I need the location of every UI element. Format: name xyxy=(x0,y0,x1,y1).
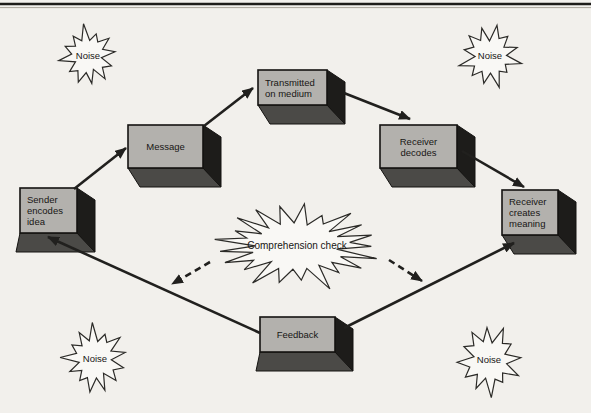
feedback-label-line: Feedback xyxy=(277,329,319,340)
communication-process-diagram: NoiseNoiseNoiseNoiseComprehension checkS… xyxy=(0,0,591,413)
node-transmitted-on-medium: Transmittedon medium xyxy=(258,70,345,124)
receiver-creates-meaning-label-line: creates xyxy=(509,207,540,218)
receiver-decodes-label-line: Receiver xyxy=(400,136,438,147)
receiver-creates-meaning-label-line: meaning xyxy=(509,218,545,229)
noise-top-right-label: Noise xyxy=(478,50,502,61)
receiver-decodes-label: Receiverdecodes xyxy=(400,136,438,158)
transmitted-on-medium-label-line: Transmitted xyxy=(265,77,315,88)
message-label: Message xyxy=(146,141,185,152)
transmitted-on-medium-label-line: on medium xyxy=(265,88,312,99)
node-feedback: Feedback xyxy=(256,317,353,371)
feedback-label: Feedback xyxy=(277,329,319,340)
message-label-line: Message xyxy=(146,141,185,152)
comprehension-check-label: Comprehension check xyxy=(247,240,347,251)
noise-bottom-right-label: Noise xyxy=(477,354,501,365)
noise-top-left-label: Noise xyxy=(76,50,100,61)
receiver-decodes-label-line: decodes xyxy=(401,147,437,158)
sender-encodes-idea-label-line: Sender xyxy=(27,194,58,205)
noise-bottom-left-label: Noise xyxy=(83,353,107,364)
transmitted-on-medium-label: Transmittedon medium xyxy=(265,77,315,99)
node-sender-encodes-idea: Senderencodesidea xyxy=(16,188,95,252)
receiver-creates-meaning-label-line: Receiver xyxy=(509,196,547,207)
communication-process-figure: NoiseNoiseNoiseNoiseComprehension checkS… xyxy=(0,0,591,413)
node-receiver-decodes: Receiverdecodes xyxy=(380,125,475,187)
sender-encodes-idea-label-line: encodes xyxy=(27,205,63,216)
sender-encodes-idea-label-line: idea xyxy=(27,216,46,227)
node-message: Message xyxy=(128,125,221,187)
